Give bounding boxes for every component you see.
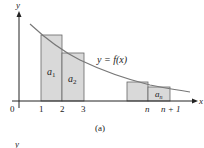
x-tick-n: n <box>145 104 150 114</box>
origin-label: 0 <box>10 104 15 114</box>
rect-a-n-minus-1 <box>127 82 148 101</box>
x-tick-2: 2 <box>60 104 65 114</box>
caption: (a) <box>95 123 105 133</box>
y-axis-label: y <box>15 0 20 10</box>
x-axis-label: x <box>198 96 203 106</box>
curve-label: y = f(x) <box>96 54 128 66</box>
x-tick-3: 3 <box>81 104 86 114</box>
rectangles <box>41 35 170 101</box>
x-tick-n-plus-1: n + 1 <box>161 104 181 114</box>
x-tick-1: 1 <box>39 104 44 114</box>
integral-test-diagram: y x 0 1 2 3 n n + 1 a1 a2 an y = f(x) (a… <box>0 0 204 148</box>
next-panel-y-label: y <box>14 139 19 148</box>
x-axis-arrow-icon <box>192 99 198 104</box>
y-axis-arrow-icon <box>17 11 22 17</box>
